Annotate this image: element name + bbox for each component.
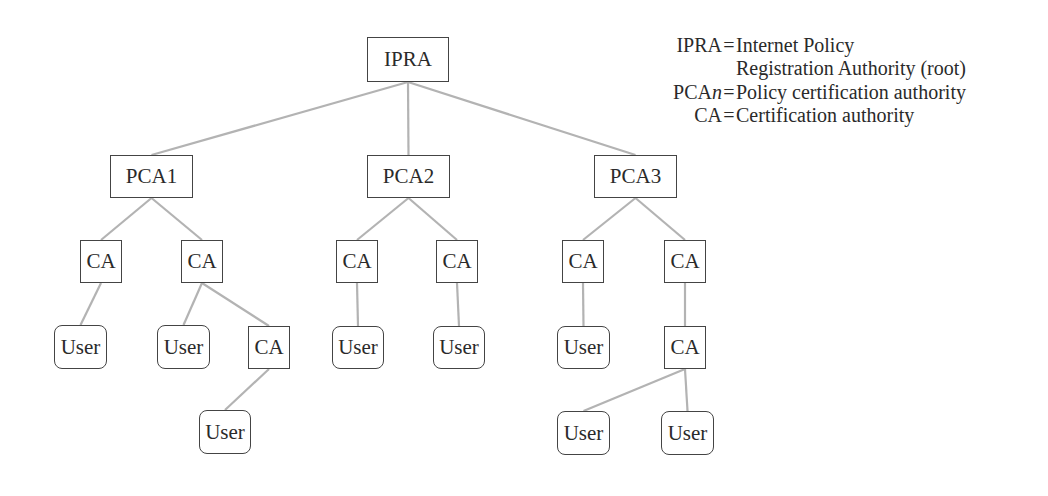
authority-node-pca1: PCA1 <box>110 155 193 198</box>
user-node-user5: User <box>557 326 610 369</box>
legend-term: CA <box>640 104 722 127</box>
edge-ca8-user8 <box>685 369 688 411</box>
edge-pca2-ca4 <box>409 198 458 240</box>
edge-ipra-pca1 <box>152 82 409 155</box>
edge-pca3-ca5 <box>583 198 636 240</box>
authority-node-ca1: CA <box>80 240 122 283</box>
edge-pca2-ca3 <box>357 198 409 240</box>
legend-term: IPRA <box>640 34 722 57</box>
user-node-user4: User <box>433 326 485 369</box>
edge-pca1-ca1 <box>101 198 152 240</box>
authority-node-pca3: PCA3 <box>594 155 677 198</box>
edge-ca1-user1 <box>81 283 102 325</box>
legend-definition: Policy certification authority <box>736 81 966 104</box>
user-node-user1: User <box>54 325 107 369</box>
edge-ca2-ca7 <box>202 283 269 326</box>
edge-ipra-pca2 <box>408 82 409 155</box>
edge-ipra-pca3 <box>408 82 636 155</box>
user-node-user3: User <box>332 326 384 369</box>
authority-node-ca7: CA <box>248 326 290 369</box>
authority-node-ca3: CA <box>336 240 378 283</box>
user-node-user7: User <box>557 411 610 455</box>
authority-node-pca2: PCA2 <box>367 155 450 198</box>
legend-row-ipra: IPRA = Internet Policy <box>640 34 966 57</box>
authority-node-ca2: CA <box>181 240 223 283</box>
legend-row-pcan: PCAn = Policy certification authority <box>640 81 966 104</box>
edge-ca7-user6 <box>225 369 269 410</box>
authority-node-ca4: CA <box>436 240 478 283</box>
legend-equals: = <box>722 104 736 127</box>
user-node-user2: User <box>157 325 210 369</box>
legend-definition: Internet Policy <box>736 34 854 57</box>
authority-node-ipra: IPRA <box>367 37 449 82</box>
legend-row-ipra-continued: Registration Authority (root) <box>640 57 966 80</box>
edge-ca8-user7 <box>584 369 686 411</box>
legend-term: PCAn <box>640 81 722 104</box>
edge-ca4-user4 <box>457 283 459 326</box>
authority-node-ca8: CA <box>664 326 706 369</box>
legend-equals: = <box>722 81 736 104</box>
edge-ca5-user5 <box>583 283 584 326</box>
user-node-user8: User <box>661 411 714 455</box>
edge-pca1-ca2 <box>152 198 203 240</box>
user-node-user6: User <box>199 410 251 454</box>
edge-ca3-user3 <box>357 283 358 326</box>
authority-node-ca5: CA <box>562 240 604 283</box>
legend-definition: Certification authority <box>736 104 914 127</box>
legend-equals: = <box>722 34 736 57</box>
legend: IPRA = Internet Policy Registration Auth… <box>640 34 966 127</box>
legend-row-ca: CA = Certification authority <box>640 104 966 127</box>
edge-pca3-ca6 <box>636 198 686 240</box>
legend-definition: Registration Authority (root) <box>736 57 966 80</box>
edge-ca2-user2 <box>184 283 203 325</box>
authority-node-ca6: CA <box>664 240 706 283</box>
